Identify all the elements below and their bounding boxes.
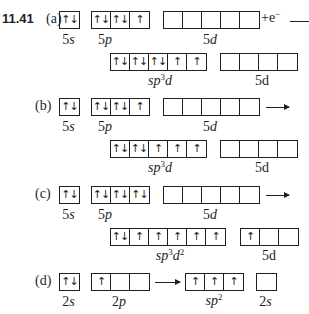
orbital-cell: ↑↓ <box>60 187 79 203</box>
orbital-cell <box>164 12 183 28</box>
part-a-hybrid-orbitals: ↑↓ ↑↓ ↑↓ ↑ ↑ <box>110 53 207 71</box>
orbital-cell <box>278 54 297 70</box>
orbital-cell <box>240 187 259 203</box>
part-b-5d-label: 5d <box>198 119 222 135</box>
orbital-cell <box>183 187 202 203</box>
orbital-cell <box>279 229 298 245</box>
orbital-cell <box>240 54 259 70</box>
part-b-remaining-label: 5d <box>250 160 274 176</box>
part-c-5d-orbitals <box>163 186 260 204</box>
orbital-cell: ↑ <box>205 274 224 290</box>
part-b-5s-label: 5s <box>59 119 78 135</box>
arrow-icon <box>266 195 289 196</box>
orbital-cell <box>221 12 240 28</box>
orbital-cell: ↑↓ <box>149 54 168 70</box>
orbital-cell: ↑↓ <box>111 141 130 157</box>
part-d-sp2-orbitals: ↑ ↑ ↑ <box>185 273 244 291</box>
orbital-cell: ↑ <box>130 229 149 245</box>
orbital-cell: ↑↓ <box>111 187 130 203</box>
part-c-hybrid-label: sp3d2 <box>148 248 192 264</box>
orbital-cell <box>111 274 130 290</box>
orbital-cell <box>259 141 278 157</box>
part-d-2s-empty-label: 2s <box>256 294 275 310</box>
orbital-cell <box>183 99 202 115</box>
part-c-label: (c) <box>35 186 51 202</box>
part-a-5s-label: 5s <box>59 32 78 48</box>
orbital-cell: ↑ <box>168 141 187 157</box>
orbital-cell: ↑↓ <box>60 12 79 28</box>
arrow-icon <box>266 107 289 108</box>
part-a-remaining-label: 5d <box>250 73 274 89</box>
part-d-2s-orbital: ↑↓ <box>59 273 80 291</box>
orbital-cell: ↑ <box>168 54 187 70</box>
orbital-cell <box>164 99 183 115</box>
orbital-cell: ↑↓ <box>130 187 149 203</box>
orbital-cell: ↑↓ <box>111 229 130 245</box>
orbital-cell: ↑ <box>149 229 168 245</box>
orbital-cell <box>221 54 240 70</box>
part-c-5d-label: 5d <box>198 207 222 223</box>
part-a-5s-orbital: ↑↓ <box>59 11 80 29</box>
orbital-cell <box>202 12 221 28</box>
part-a-5d-label: 5d <box>198 32 222 48</box>
orbital-cell: ↑ <box>187 54 206 70</box>
orbital-cell <box>183 12 202 28</box>
part-c-5s-orbital: ↑↓ <box>59 186 80 204</box>
orbital-cell <box>202 187 221 203</box>
part-d-label: (d) <box>35 273 51 289</box>
orbital-cell: ↑ <box>130 99 149 115</box>
orbital-cell <box>221 187 240 203</box>
orbital-cell <box>260 229 279 245</box>
orbital-cell: ↑ <box>206 229 225 245</box>
part-b-hybrid-orbitals: ↑↓ ↑↓ ↑ ↑ ↑ <box>110 140 207 158</box>
orbital-cell <box>130 274 149 290</box>
part-d-2s-label: 2s <box>59 294 78 310</box>
orbital-cell <box>259 54 278 70</box>
orbital-cell: ↑↓ <box>60 99 79 115</box>
part-c-5p-orbitals: ↑↓ ↑↓ ↑↓ <box>91 186 150 204</box>
problem-number: 11.41 <box>2 11 34 26</box>
orbital-cell <box>221 99 240 115</box>
orbital-cell: ↑↓ <box>130 141 149 157</box>
orbital-cell: ↑↓ <box>92 99 111 115</box>
orbital-cell <box>202 99 221 115</box>
part-c-remaining-label: 5d <box>257 248 281 264</box>
part-a-5p-orbitals: ↑↓ ↑↓ ↑ <box>91 11 150 29</box>
part-a-5d-orbitals <box>163 11 260 29</box>
orbital-cell <box>240 12 259 28</box>
arrow-icon <box>155 282 180 283</box>
orbital-cell <box>278 141 297 157</box>
part-b-5d-orbitals <box>163 98 260 116</box>
orbital-cell <box>240 99 259 115</box>
part-b-5p-label: 5p <box>91 119 119 135</box>
orbital-cell: ↑↓ <box>60 274 79 290</box>
part-d-2s-empty-orbital <box>256 273 277 291</box>
part-c-remaining-5d: ↑ <box>240 228 299 246</box>
orbital-cell: ↑ <box>168 229 187 245</box>
orbital-cell: ↑ <box>187 229 206 245</box>
orbital-cell: ↑↓ <box>111 54 130 70</box>
orbital-cell: ↑ <box>241 229 260 245</box>
part-b-label: (b) <box>35 98 51 114</box>
arrow-icon <box>290 21 309 22</box>
orbital-cell <box>164 187 183 203</box>
orbital-cell <box>221 141 240 157</box>
orbital-cell: ↑ <box>186 274 205 290</box>
orbital-cell: ↑ <box>224 274 243 290</box>
part-d-sp2-label: sp2 <box>196 293 232 309</box>
plus-electron: +e− <box>261 10 280 26</box>
orbital-cell <box>257 274 276 290</box>
orbital-cell: ↑↓ <box>92 12 111 28</box>
part-b-remaining-5d <box>220 140 298 158</box>
orbital-cell <box>240 141 259 157</box>
orbital-cell: ↑↓ <box>111 99 130 115</box>
part-d-2p-orbitals: ↑ <box>91 273 150 291</box>
orbital-cell: ↑ <box>92 274 111 290</box>
part-b-5p-orbitals: ↑↓ ↑↓ ↑ <box>91 98 150 116</box>
orbital-cell: ↑ <box>130 12 149 28</box>
part-c-5p-label: 5p <box>91 207 119 223</box>
part-d-2p-label: 2p <box>105 294 133 310</box>
part-b-5s-orbital: ↑↓ <box>59 98 80 116</box>
part-a-hybrid-label: sp3d <box>140 73 180 89</box>
part-c-5s-label: 5s <box>59 207 78 223</box>
